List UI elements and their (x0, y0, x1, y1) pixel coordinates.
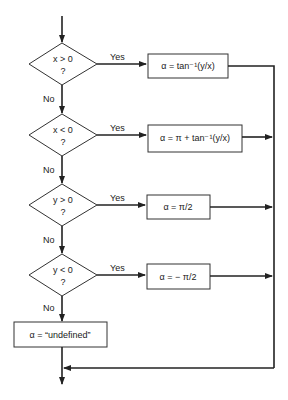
yes-label: Yes (110, 52, 125, 62)
result-box: α = tan⁻¹(y/x) (148, 54, 228, 78)
result-text: α = tan⁻¹(y/x) (161, 61, 214, 71)
result-box: α = π/2 (147, 195, 210, 219)
result-text: α = − π/2 (160, 272, 197, 282)
merge-line (228, 66, 274, 368)
result-text: α = π + tan⁻¹(y/x) (160, 133, 230, 143)
fallback-box: α = “undefined” (14, 322, 107, 347)
decision-question: ? (60, 207, 65, 217)
no-label: No (43, 165, 55, 175)
decision-condition: y < 0 (53, 265, 73, 275)
decision-question: ? (60, 277, 65, 287)
yes-label: Yes (110, 123, 125, 133)
decision-x-gt-0: x > 0 ? (29, 43, 97, 85)
decision-diamond (29, 43, 97, 85)
decision-y-gt-0: y > 0 ? (29, 184, 97, 226)
no-label: No (43, 235, 55, 245)
decision-condition: x > 0 (53, 54, 73, 64)
no-label: No (43, 94, 55, 104)
decision-condition: y > 0 (53, 195, 73, 205)
decision-x-lt-0: x < 0 ? (29, 114, 97, 156)
decision-question: ? (60, 66, 65, 76)
yes-label: Yes (110, 263, 125, 273)
no-label: No (43, 303, 55, 313)
yes-label: Yes (110, 193, 125, 203)
result-box: α = − π/2 (147, 264, 210, 289)
decision-diamond (29, 254, 97, 296)
decision-question: ? (60, 137, 65, 147)
decision-diamond (29, 184, 97, 226)
flowchart: x > 0 ? Yes α = tan⁻¹(y/x) No x < 0 ? Ye… (0, 0, 288, 400)
decision-y-lt-0: y < 0 ? (29, 254, 97, 296)
decision-diamond (29, 114, 97, 156)
fallback-text: α = “undefined” (30, 330, 91, 340)
result-text: α = π/2 (163, 202, 192, 212)
decision-condition: x < 0 (53, 125, 73, 135)
result-box: α = π + tan⁻¹(y/x) (148, 125, 242, 152)
